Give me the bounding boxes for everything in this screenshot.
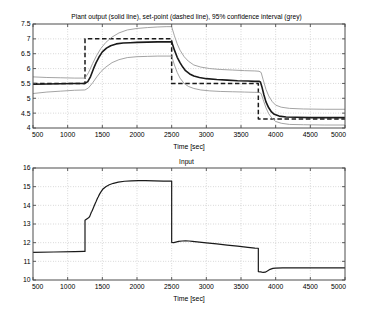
- y-tick-label: 6.5: [21, 50, 31, 57]
- x-tick-label: 1000: [60, 131, 75, 138]
- x-tick-label: 3500: [233, 131, 248, 138]
- y-tick-label: 7: [27, 35, 31, 42]
- x-tick-label: 1500: [95, 131, 110, 138]
- series-set-point: [33, 39, 345, 119]
- plant-output-axes: Plant output (solid line), set-point (da…: [0, 0, 373, 158]
- x-tick-label: 4500: [303, 131, 318, 138]
- input-axes: Input 5001000150020002500300035004000450…: [0, 155, 373, 316]
- y-tick-label: 5.5: [21, 80, 31, 87]
- y-tick-label: 11: [23, 258, 30, 265]
- x-tick-label: 4000: [268, 131, 283, 138]
- y-tick-label: 13: [23, 220, 31, 227]
- x-tick-label: 1000: [60, 283, 75, 290]
- y-tick-label: 14: [23, 202, 31, 209]
- x-tick-label: 2000: [129, 131, 144, 138]
- series-95-confidence-interval-lower: [33, 56, 345, 125]
- x-tick-label: 2500: [164, 131, 179, 138]
- y-tick-label: 5: [27, 95, 31, 102]
- plot-frame: [33, 24, 345, 128]
- y-tick-label: 10: [23, 276, 31, 283]
- matlab-figure: Plant output (solid line), set-point (da…: [0, 0, 373, 316]
- x-tick-label: 500: [32, 283, 44, 290]
- x-tick-label: 3500: [233, 283, 248, 290]
- x-tick-label: 3000: [199, 283, 214, 290]
- y-tick-label: 15: [23, 183, 31, 190]
- y-tick-label: 4: [27, 124, 31, 131]
- x-tick-label: 4000: [268, 283, 283, 290]
- x-axis-label: Time [sec]: [173, 295, 205, 303]
- x-tick-label: 3000: [199, 131, 214, 138]
- x-tick-label: 5000: [331, 131, 346, 138]
- x-tick-label: 4500: [303, 283, 318, 290]
- plant-output-plot: 5001000150020002500300035004000450050004…: [0, 0, 373, 158]
- x-tick-label: 2000: [129, 283, 144, 290]
- x-tick-label: 500: [32, 131, 44, 138]
- series-input: [33, 181, 345, 273]
- y-tick-label: 7.5: [21, 20, 31, 27]
- y-tick-label: 6: [27, 65, 31, 72]
- x-axis-label: Time [sec]: [173, 143, 205, 151]
- x-tick-label: 5000: [331, 283, 346, 290]
- y-tick-label: 12: [23, 239, 31, 246]
- y-tick-label: 16: [23, 164, 31, 171]
- x-tick-label: 1500: [95, 283, 110, 290]
- input-plot: 5001000150020002500300035004000450050001…: [0, 155, 373, 316]
- y-tick-label: 4.5: [21, 110, 31, 117]
- series-plant-output: [33, 42, 345, 118]
- x-tick-label: 2500: [164, 283, 179, 290]
